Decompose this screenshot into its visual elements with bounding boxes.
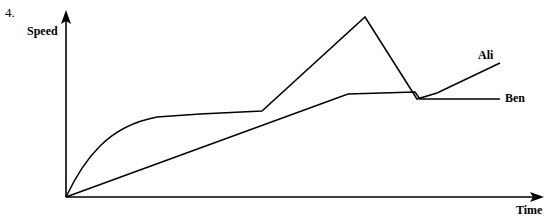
- series-label-ben: Ben: [505, 92, 525, 104]
- speed-time-figure: 4. Speed Time Ali Ben: [0, 0, 555, 223]
- series-label-ali: Ali: [478, 49, 493, 61]
- question-number: 4.: [5, 6, 15, 19]
- y-axis-label: Speed: [27, 25, 58, 37]
- series-line-ali: [66, 17, 500, 197]
- series-line-ben: [66, 92, 500, 197]
- axes-group: [66, 18, 536, 197]
- graph-canvas: [0, 0, 555, 223]
- x-axis-label: Time: [516, 204, 542, 216]
